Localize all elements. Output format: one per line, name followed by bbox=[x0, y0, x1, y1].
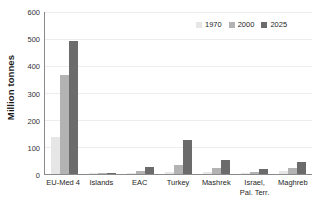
legend-swatch-icon-1970 bbox=[196, 22, 202, 28]
legend-label-2025: 2025 bbox=[270, 20, 287, 29]
bar-group bbox=[83, 12, 121, 174]
legend-swatch-icon-2000 bbox=[229, 22, 235, 28]
y-tick-200: 200 bbox=[27, 116, 40, 125]
bar[interactable] bbox=[51, 137, 60, 174]
x-tick-label: Mashrek bbox=[197, 176, 235, 212]
x-tick-label: Turkey bbox=[159, 176, 197, 212]
bar-group bbox=[274, 12, 312, 174]
legend-item-2000: 2000 bbox=[229, 20, 255, 29]
bar-group bbox=[121, 12, 159, 174]
y-tick-0: 0 bbox=[36, 171, 40, 180]
y-tick-400: 400 bbox=[27, 62, 40, 71]
y-axis-tick-labels: 600 500 400 300 200 100 0 bbox=[18, 12, 42, 175]
y-tick-500: 500 bbox=[27, 35, 40, 44]
bar[interactable] bbox=[60, 75, 69, 174]
bar[interactable] bbox=[145, 167, 154, 174]
x-tick-label: EU-Med 4 bbox=[44, 176, 82, 212]
bar[interactable] bbox=[165, 172, 174, 174]
bar[interactable] bbox=[127, 173, 136, 174]
bar-group bbox=[198, 12, 236, 174]
x-axis-tick-labels: EU-Med 4IslandsEACTurkeyMashrekIsrael,Pa… bbox=[44, 176, 312, 212]
x-tick-label: Islands bbox=[82, 176, 120, 212]
bar[interactable] bbox=[136, 171, 145, 175]
bar[interactable] bbox=[259, 169, 268, 174]
y-tick-600: 600 bbox=[27, 8, 40, 17]
bar[interactable] bbox=[69, 41, 78, 174]
plot-area bbox=[44, 12, 312, 175]
bars-layer bbox=[45, 12, 312, 174]
y-tick-300: 300 bbox=[27, 89, 40, 98]
legend: 1970 2000 2025 bbox=[196, 20, 287, 29]
bar[interactable] bbox=[288, 168, 297, 174]
bar[interactable] bbox=[98, 173, 107, 174]
y-axis-title-text: Million tonnes bbox=[6, 55, 17, 120]
y-tick-100: 100 bbox=[27, 143, 40, 152]
bar[interactable] bbox=[212, 168, 221, 174]
legend-item-1970: 1970 bbox=[196, 20, 222, 29]
bar[interactable] bbox=[183, 140, 192, 174]
legend-swatch-icon-2025 bbox=[261, 22, 267, 28]
legend-label-2000: 2000 bbox=[238, 20, 255, 29]
bar[interactable] bbox=[107, 173, 116, 174]
legend-item-2025: 2025 bbox=[261, 20, 287, 29]
bar[interactable] bbox=[221, 160, 230, 174]
bar-chart: Million tonnes 600 500 400 300 200 100 0… bbox=[0, 0, 322, 214]
bar[interactable] bbox=[297, 162, 306, 174]
bar[interactable] bbox=[279, 171, 288, 174]
bar[interactable] bbox=[250, 172, 259, 174]
bar-group bbox=[159, 12, 197, 174]
bar-group bbox=[45, 12, 83, 174]
bar[interactable] bbox=[241, 173, 250, 174]
bar[interactable] bbox=[174, 165, 183, 174]
bar[interactable] bbox=[89, 173, 98, 174]
x-tick-label: Maghreb bbox=[274, 176, 312, 212]
x-tick-label: Israel,Pal. Terr. bbox=[235, 176, 273, 212]
bar[interactable] bbox=[203, 172, 212, 174]
x-tick-label: EAC bbox=[121, 176, 159, 212]
legend-label-1970: 1970 bbox=[205, 20, 222, 29]
bar-group bbox=[236, 12, 274, 174]
